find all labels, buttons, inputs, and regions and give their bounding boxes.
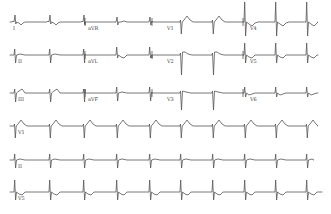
trace-aVR [85,17,152,25]
rhythm-strip-V1 [10,120,318,138]
lead-label-V6: V6 [249,96,257,102]
rhythm-strip-V5 [10,180,322,200]
lead-label-V4: V4 [249,25,257,31]
rhythm-label-V1: V1 [17,129,25,135]
trace-V2 [152,52,243,75]
rhythm-label-V5: V5 [17,195,25,201]
lead-label-V3: V3 [166,96,174,102]
trace-aVL [85,47,152,58]
ecg-traces [10,2,322,200]
rhythm-label-II: II [18,163,22,169]
trace-I [10,15,85,25]
rhythm-strip-II [10,154,314,168]
lead-label-III: III [18,96,24,102]
lead-label-V1: V1 [166,25,174,31]
lead-label-aVL: aVL [88,58,99,64]
lead-label-V2: V2 [166,58,174,64]
lead-label-aVR: aVR [88,25,99,31]
lead-label-V5: V5 [249,58,257,64]
trace-V3 [152,91,243,110]
trace-V1 [152,16,243,34]
lead-label-II: II [18,58,22,64]
lead-label-aVF: aVF [88,96,99,102]
ecg-tracing: I aVR V1 V4 II aVL V2 V5 III aVF V3 V6 V… [0,0,331,214]
lead-label-I: I [13,25,15,31]
